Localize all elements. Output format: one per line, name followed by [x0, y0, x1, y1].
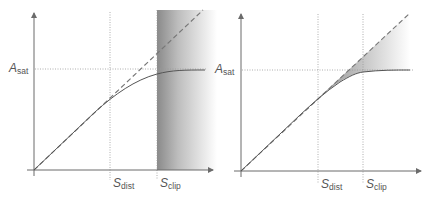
- figure-canvas: Asat Sdist Sclip Asat Sdist Sclip: [0, 0, 431, 200]
- a-sat-label: Asat: [8, 61, 29, 76]
- right-panel: Asat Sdist Sclip: [214, 13, 421, 192]
- a-sat-label: Asat: [214, 62, 235, 77]
- s-clip-label: Sclip: [366, 177, 387, 192]
- s-dist-label: Sdist: [321, 177, 343, 192]
- s-clip-label: Sclip: [160, 176, 181, 191]
- s-dist-label: Sdist: [113, 176, 135, 191]
- clipping-region-band: [157, 10, 217, 170]
- left-panel: Asat Sdist Sclip: [8, 10, 217, 191]
- saturation-curve: [241, 70, 410, 171]
